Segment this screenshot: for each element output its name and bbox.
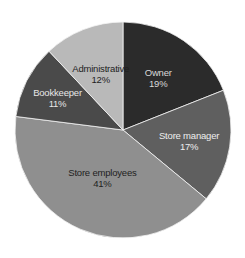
- pie-chart: Owner19%Store manager17%Store employees4…: [0, 0, 245, 258]
- slice-category-label: Bookkeeper: [33, 87, 82, 98]
- slice-category-label: Administrative: [72, 63, 129, 74]
- slice-value-label: 12%: [91, 74, 110, 85]
- slice-category-label: Store employees: [68, 167, 137, 178]
- slice-category-label: Store manager: [159, 130, 219, 141]
- slice-value-label: 19%: [149, 78, 168, 89]
- slice-value-label: 17%: [180, 141, 199, 152]
- slice-value-label: 41%: [93, 178, 112, 189]
- slice-value-label: 11%: [49, 98, 67, 109]
- slice-category-label: Owner: [145, 67, 172, 78]
